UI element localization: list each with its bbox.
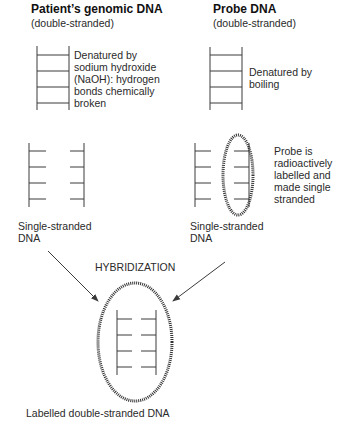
patient-single-stranded-label: Single-stranded DNA: [18, 220, 92, 244]
note-line: stranded: [274, 193, 332, 205]
diagram-graphics: [0, 0, 337, 424]
patient-dna-subtitle: (double-stranded): [31, 17, 114, 29]
note-line: radioactively: [274, 157, 332, 169]
label-line: Single-stranded: [190, 220, 264, 232]
patient-dna-title: Patient’s genomic DNA: [31, 3, 163, 16]
note-line: (NaOH): hydrogen: [74, 73, 160, 85]
probe-dna-subtitle: (double-stranded): [213, 17, 296, 29]
probe-double-stranded-dna-icon: [210, 47, 242, 110]
right-arrow-icon: [173, 262, 225, 301]
hybridized-dna-icon: [117, 310, 156, 375]
label-line: DNA: [190, 232, 264, 244]
note-line: bonds chemically: [74, 85, 160, 97]
patient-single-stranded-dna-icon: [29, 143, 84, 207]
label-line: Single-stranded: [18, 220, 92, 232]
note-line: broken: [74, 97, 160, 109]
probe-single-stranded-label: Single-stranded DNA: [190, 220, 264, 244]
left-arrow-icon: [48, 251, 98, 301]
note-line: boiling: [249, 78, 312, 90]
note-line: Denatured by: [74, 49, 160, 61]
hybridized-label-ellipse-icon: [98, 283, 172, 401]
result-label: Labelled double-stranded DNA: [26, 407, 170, 419]
note-line: Probe is: [274, 145, 332, 157]
patient-double-stranded-dna-icon: [37, 46, 69, 110]
probe-denature-note: Denatured by boiling: [249, 66, 312, 90]
note-line: labelled and: [274, 169, 332, 181]
hybridization-label: HYBRIDIZATION: [95, 261, 175, 273]
probe-label-note: Probe is radioactively labelled and made…: [274, 145, 332, 205]
note-line: sodium hydroxide: [74, 61, 160, 73]
probe-dna-title: Probe DNA: [213, 3, 276, 16]
label-line: DNA: [18, 232, 92, 244]
note-line: Denatured by: [249, 66, 312, 78]
patient-denature-note: Denatured by sodium hydroxide (NaOH): hy…: [74, 49, 160, 109]
note-line: made single: [274, 181, 332, 193]
